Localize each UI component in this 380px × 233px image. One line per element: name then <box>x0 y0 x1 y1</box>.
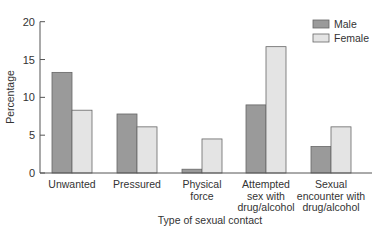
bar-female <box>72 110 92 173</box>
x-tick-label: drug/alcohol <box>302 201 359 213</box>
y-axis: 05101520 <box>23 16 45 179</box>
bar-male <box>52 72 72 173</box>
bars <box>52 47 351 173</box>
bar-male <box>117 114 137 173</box>
y-tick-label: 10 <box>23 91 35 103</box>
y-axis-title: Percentage <box>4 70 16 124</box>
x-axis-title: Type of sexual contact <box>158 214 263 226</box>
x-tick-label: drug/alcohol <box>237 201 294 213</box>
bar-female <box>137 127 157 173</box>
y-tick-label: 20 <box>23 16 35 28</box>
legend: MaleFemale <box>313 18 369 44</box>
x-tick-label: force <box>190 190 214 202</box>
bar-male <box>182 169 202 173</box>
x-tick-label: Unwanted <box>48 178 95 190</box>
legend-swatch-male <box>313 20 329 28</box>
bar-female <box>331 127 351 173</box>
x-axis: UnwantedPressuredPhysicalforceAttempteds… <box>40 173 372 213</box>
bar-male <box>246 105 266 173</box>
x-tick-label: Pressured <box>113 178 161 190</box>
bar-male <box>311 147 331 173</box>
legend-label-female: Female <box>334 32 369 44</box>
bar-female <box>202 139 222 173</box>
bar-chart: 05101520 UnwantedPressuredPhysicalforceA… <box>0 0 380 233</box>
y-tick-label: 15 <box>23 54 35 66</box>
y-tick-label: 0 <box>29 167 35 179</box>
x-tick-label: encounter with <box>297 190 365 202</box>
x-tick-label: sex with <box>247 190 285 202</box>
y-tick-label: 5 <box>29 129 35 141</box>
bar-female <box>266 47 286 173</box>
legend-swatch-female <box>313 34 329 42</box>
x-tick-label: Sexual <box>315 178 347 190</box>
x-tick-label: Attempted <box>242 178 290 190</box>
legend-label-male: Male <box>334 18 357 30</box>
x-tick-label: Physical <box>182 178 221 190</box>
